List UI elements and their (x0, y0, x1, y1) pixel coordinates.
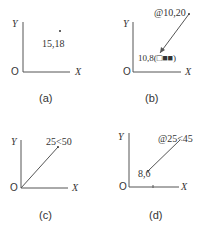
end-point-label: @25<45 (158, 133, 193, 144)
caption-b: (b) (145, 92, 158, 104)
point-marker (59, 30, 61, 32)
y-axis-label: Y (12, 18, 18, 29)
x-axis-label: X (75, 66, 81, 77)
start-point-label: 8,6 (138, 168, 151, 179)
y-axis-label: Y (11, 136, 17, 147)
end-point-label: 25<50 (46, 136, 72, 147)
panel-d: Y X O @25<45 8,6 (d) (103, 116, 206, 233)
origin-label: O (123, 66, 131, 77)
origin-label: O (11, 66, 19, 77)
y-axis-label: Y (118, 131, 124, 142)
caption-d: (d) (149, 209, 162, 221)
panel-b: Y X O @10,20 10,8(□■■) (b) (103, 0, 206, 116)
x-axis-label: X (72, 182, 78, 193)
origin-label: O (10, 182, 18, 193)
x-axis-label: X (185, 66, 191, 77)
panel-a: Y X O 15,18 (a) (0, 0, 103, 116)
y-axis-label: Y (123, 18, 129, 29)
caption-c: (c) (39, 209, 52, 221)
start-point-label: 10,8(□■■) (138, 53, 176, 63)
end-point-label: @10,20 (154, 7, 186, 18)
caption-a: (a) (39, 92, 52, 104)
x-axis-label: X (181, 181, 187, 192)
panel-c: Y X O 25<50 (c) (0, 116, 103, 233)
point-label: 15,18 (42, 38, 65, 49)
origin-label: O (119, 181, 127, 192)
